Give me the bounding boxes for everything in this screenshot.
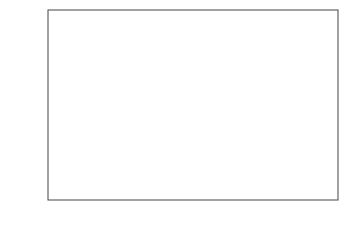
scatter-chart	[0, 0, 349, 243]
plot-frame	[48, 10, 338, 200]
